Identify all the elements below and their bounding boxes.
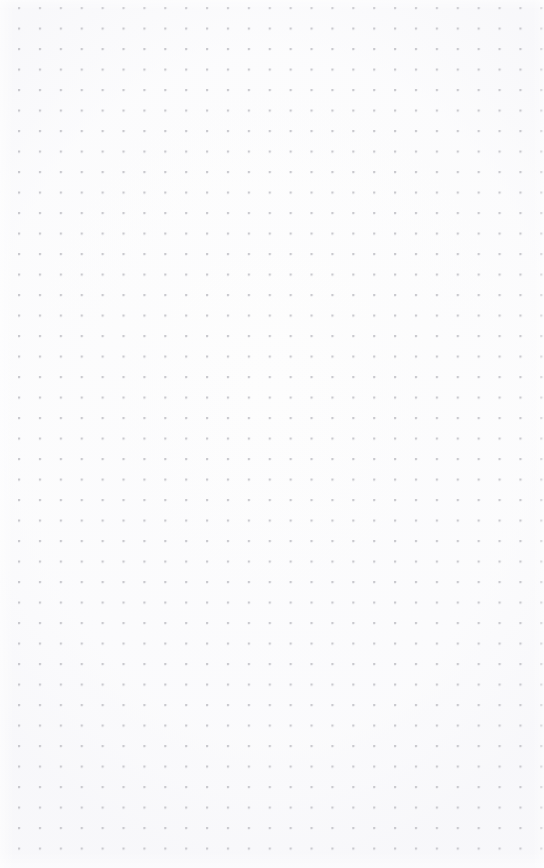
dot-grid-pattern bbox=[0, 0, 544, 868]
dot-grid-canvas[interactable] bbox=[0, 0, 544, 868]
paper-background bbox=[0, 0, 544, 868]
canvas-edge-vignette bbox=[0, 0, 544, 868]
